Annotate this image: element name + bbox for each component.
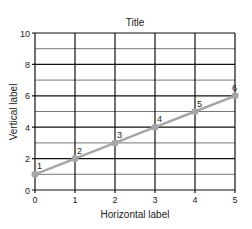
x-tick-label: 3 xyxy=(152,195,157,205)
axis-ticks: 0246810012345 xyxy=(20,29,238,206)
x-tick-label: 2 xyxy=(112,195,117,205)
minor-gridlines xyxy=(35,49,235,175)
y-tick-label: 10 xyxy=(20,29,30,39)
data-point-label: 2 xyxy=(77,146,82,156)
chart-canvas: 0246810012345 123456 Title Horizontal la… xyxy=(0,0,252,229)
y-tick-label: 8 xyxy=(25,60,30,70)
data-point-label: 6 xyxy=(232,83,237,93)
data-point xyxy=(192,108,199,115)
data-point xyxy=(72,155,79,162)
y-tick-label: 4 xyxy=(25,123,30,133)
x-tick-label: 4 xyxy=(192,195,197,205)
y-tick-label: 6 xyxy=(25,91,30,101)
y-tick-label: 0 xyxy=(25,186,30,196)
data-series: 123456 xyxy=(32,83,239,178)
data-point xyxy=(152,124,159,131)
x-tick-label: 0 xyxy=(32,195,37,205)
data-point xyxy=(232,92,239,99)
line-chart: 0246810012345 123456 Title Horizontal la… xyxy=(0,0,252,229)
x-tick-label: 5 xyxy=(232,195,237,205)
series-line xyxy=(35,96,235,175)
major-gridlines xyxy=(32,33,235,193)
y-axis-label: Vertical label xyxy=(8,84,19,141)
data-point-label: 5 xyxy=(197,99,202,109)
x-tick-label: 1 xyxy=(72,195,77,205)
data-point-label: 3 xyxy=(117,130,122,140)
y-tick-label: 2 xyxy=(25,154,30,164)
chart-title: Title xyxy=(126,17,145,28)
data-point xyxy=(112,139,119,146)
data-point-label: 4 xyxy=(157,114,162,124)
data-point-label: 1 xyxy=(37,161,42,171)
data-point xyxy=(32,171,39,178)
x-axis-label: Horizontal label xyxy=(101,209,170,220)
